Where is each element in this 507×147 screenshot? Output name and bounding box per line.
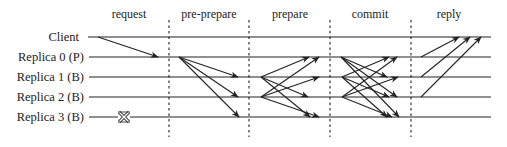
phase-label-pre-prepare: pre-prepare: [181, 7, 236, 21]
node-label-replica-2: Replica 2 (B): [17, 90, 84, 104]
crossed-box-icon: [118, 112, 130, 122]
prepare-messages: [261, 57, 319, 117]
node-label-replica-3: Replica 3 (B): [17, 110, 84, 124]
pbft-diagram: request pre-prepare prepare commit reply…: [0, 0, 507, 147]
phase-label-reply: reply: [437, 7, 462, 21]
phase-labels: request pre-prepare prepare commit reply: [112, 7, 462, 21]
phase-label-prepare: prepare: [272, 7, 308, 21]
phase-label-request: request: [112, 7, 147, 21]
commit-messages: [341, 57, 399, 117]
pre-prepare-messages: [179, 57, 239, 117]
request-messages: [98, 37, 158, 57]
phase-label-commit: commit: [352, 7, 389, 21]
reply-messages: [421, 37, 481, 97]
node-label-replica-1: Replica 1 (B): [17, 70, 84, 84]
node-labels: Client Replica 0 (P) Replica 1 (B) Repli…: [17, 30, 84, 124]
node-label-replica-0: Replica 0 (P): [18, 50, 84, 64]
node-label-client: Client: [48, 30, 79, 44]
